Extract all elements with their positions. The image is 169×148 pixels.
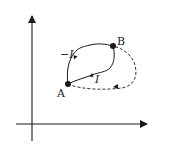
dashed-path xyxy=(68,46,136,89)
point-a xyxy=(65,81,71,87)
point-b-label: B xyxy=(117,35,125,48)
arrow-icon xyxy=(74,55,78,60)
point-a-label: A xyxy=(56,87,66,100)
point-b xyxy=(110,43,116,49)
i-label: I xyxy=(94,73,100,86)
minus-i-label: −I xyxy=(60,48,74,61)
path-diagram: A B −I I xyxy=(0,0,169,148)
solid-path-minus-i xyxy=(67,44,113,84)
